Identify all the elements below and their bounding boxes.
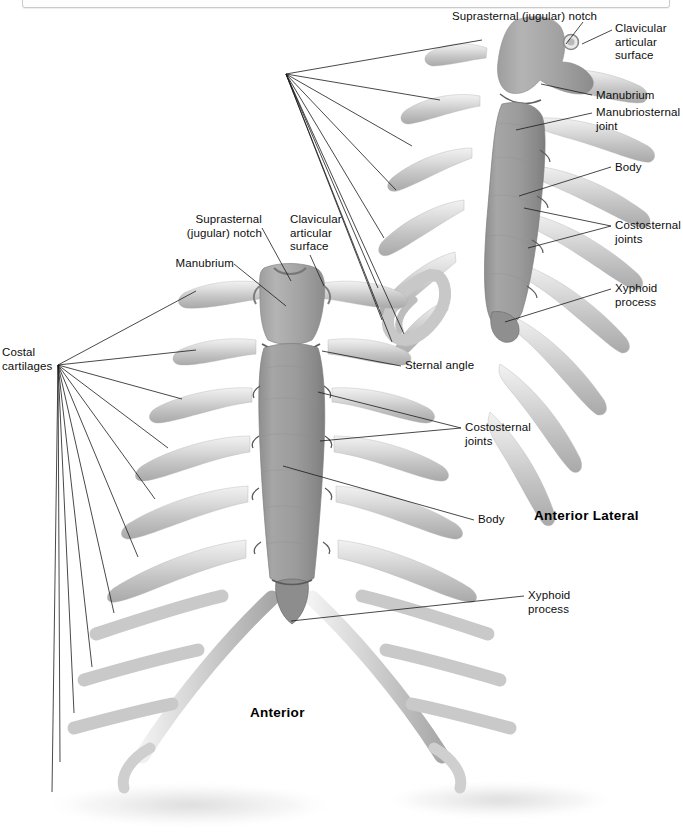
label-lateral-costosternal-joints: Costosternal joints <box>615 219 681 246</box>
leader-lines <box>0 0 683 840</box>
label-anterior-sternal-angle: Sternal angle <box>405 359 474 373</box>
label-lateral-suprasternal-notch: Suprasternal (jugular) notch <box>452 10 597 24</box>
leader-lateral-manubriosternal-joint <box>516 113 592 130</box>
label-lateral-body: Body <box>615 161 642 175</box>
leader-lateral-costal-cartilages <box>286 40 482 342</box>
label-anterior-clavicular-articular-surface: Clavicular articular surface <box>290 213 342 254</box>
leader-anterior-manubrium <box>234 264 286 306</box>
leader-anterior-costal-cartilages <box>52 291 196 792</box>
anatomy-figure: Suprasternal (jugular) notch Clavicular … <box>0 0 683 840</box>
leader-anterior-suprasternal-notch <box>262 228 291 281</box>
leader-anterior-xyphoid-process <box>291 596 524 621</box>
leader-lateral-body <box>519 167 611 196</box>
leader-anterior-body <box>283 466 474 520</box>
leader-anterior-costosternal-joints <box>318 392 461 441</box>
label-lateral-manubriosternal-joint: Manubriosternal joint <box>596 106 680 133</box>
leader-anterior-sternal-angle <box>322 351 401 366</box>
leader-lateral-xyphoid-process <box>505 289 611 322</box>
caption-anterior: Anterior <box>250 705 305 720</box>
figure-page: Suprasternal (jugular) notch Clavicular … <box>0 0 683 840</box>
label-anterior-costal-cartilages: Costal cartilages <box>2 346 52 373</box>
label-lateral-clavicular-articular-surface: Clavicular articular surface <box>615 22 667 63</box>
label-anterior-xyphoid-process: Xyphoid process <box>528 589 570 616</box>
leader-lateral-costosternal-joints <box>524 208 611 248</box>
leader-lateral-manubrium <box>541 84 592 95</box>
label-anterior-manubrium: Manubrium <box>158 257 234 271</box>
label-anterior-body: Body <box>478 513 505 527</box>
leader-lateral-suprasternal-notch <box>566 22 583 44</box>
leader-anterior-clavicular-articular-surface <box>310 255 324 286</box>
leader-lateral-clavicular-articular-surface <box>582 30 612 44</box>
label-anterior-costosternal-joints: Costosternal joints <box>465 421 531 448</box>
label-lateral-xyphoid-process: Xyphoid process <box>615 282 657 309</box>
caption-anterior-lateral: Anterior Lateral <box>534 508 639 523</box>
label-lateral-manubrium: Manubrium <box>596 89 655 103</box>
label-anterior-suprasternal-notch: Suprasternal (jugular) notch <box>166 213 262 240</box>
